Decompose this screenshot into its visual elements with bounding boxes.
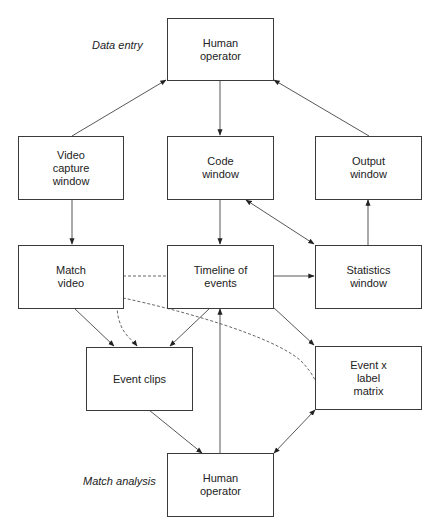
edge-matrix-operator — [274, 410, 315, 453]
node-human-operator-bottom: Human operator — [167, 453, 274, 517]
edge-clips-to-operator — [149, 410, 202, 453]
phase-label-data-entry: Data entry — [92, 39, 143, 51]
node-event-clips: Event clips — [86, 347, 193, 411]
edge-match-video-to-clips — [74, 308, 114, 346]
edge-timeline-to-matrix — [273, 307, 314, 345]
node-label: Video capture window — [53, 149, 90, 188]
node-label: Event x label matrix — [350, 359, 387, 398]
node-label: Human operator — [200, 472, 241, 498]
node-label: Timeline of events — [194, 264, 247, 290]
node-video-capture-window: Video capture window — [18, 136, 124, 200]
node-human-operator-top: Human operator — [167, 18, 274, 81]
node-event-label-matrix: Event x label matrix — [315, 346, 422, 410]
node-match-video: Match video — [18, 245, 124, 309]
edge-code-statistics — [246, 200, 314, 244]
node-label: Code window — [202, 155, 239, 181]
phase-label-match-analysis: Match analysis — [83, 475, 156, 487]
node-label: Human operator — [200, 37, 241, 63]
node-code-window: Code window — [167, 136, 274, 200]
edge-timeline-to-clips — [170, 308, 210, 346]
node-label: Event clips — [113, 373, 166, 386]
node-label: Statistics window — [346, 264, 390, 290]
edge-output-to-operator — [274, 80, 369, 136]
node-timeline-of-events: Timeline of events — [167, 245, 274, 309]
node-output-window: Output window — [315, 136, 422, 200]
node-label: Output window — [350, 155, 387, 181]
edge-video-capture-to-operator — [72, 80, 166, 136]
node-label: Match video — [56, 264, 86, 290]
node-statistics-window: Statistics window — [315, 245, 422, 309]
